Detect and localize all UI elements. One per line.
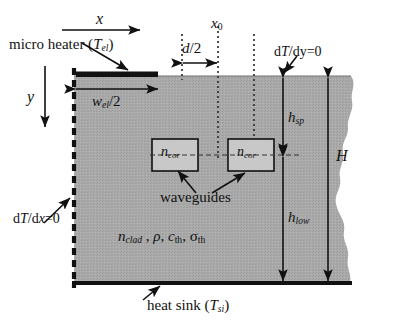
material-comma-2: , (182, 228, 190, 244)
bc-top-rest: /dy=0 (289, 44, 322, 59)
d-half-label: d/2 (182, 41, 201, 56)
micro-heater-bar (76, 72, 158, 78)
material-c-symbol: c (168, 228, 175, 244)
heat-sink-symbol: T (209, 297, 217, 313)
material-c-subscript: th (175, 234, 182, 245)
bc-left-rest: =0 (45, 211, 60, 226)
h-sp-label: hsp (288, 110, 304, 126)
material-comma-1: , (160, 228, 168, 244)
micro-heater-text: micro heater ( (9, 36, 93, 52)
n-core-right-label: ncor (237, 145, 256, 160)
micro-heater-label: micro heater (Tel) (9, 37, 113, 53)
d-half-numerator: d (182, 40, 190, 56)
n-core-right-symbol: n (237, 144, 244, 159)
bc-left-label: dT/dx=0 (13, 212, 60, 226)
n-core-left-symbol: n (161, 144, 168, 159)
h-sp-symbol: h (288, 109, 296, 125)
h-low-label: hlow (288, 210, 309, 226)
bc-top-T: T (281, 44, 289, 59)
micro-heater-paren: ) (108, 36, 113, 52)
material-properties-label: nclad , ρ, cth, σth (118, 229, 205, 245)
w-el-denominator: /2 (109, 93, 121, 109)
x0-label: x0 (211, 16, 222, 32)
y-axis-label: y (27, 89, 34, 105)
d-half-denominator: /2 (190, 40, 202, 56)
h-low-symbol: h (288, 209, 296, 225)
x0-subscript: 0 (218, 21, 223, 32)
material-sigma-subscript: th (198, 234, 205, 245)
w-el-symbol: w (92, 93, 102, 109)
x0-symbol: x (211, 15, 218, 31)
h-sp-subscript: sp (296, 115, 305, 126)
heat-sink-text: heat sink ( (147, 297, 209, 313)
bc-top-d: d (274, 44, 281, 59)
w-el-subscript: el (102, 99, 109, 110)
bc-left-T: T (20, 211, 28, 226)
H-label: H (336, 148, 348, 164)
material-n-symbol: n (118, 228, 126, 244)
figure-root: x y micro heater (Tel) x0 d/2 wel/2 dT/d… (0, 0, 405, 320)
w-el-half-label: wel/2 (92, 94, 121, 110)
material-sigma-symbol: σ (190, 228, 198, 244)
heat-sink-paren: ) (224, 297, 229, 313)
bc-left-slash: /d (28, 211, 39, 226)
n-core-left-subscript: cor (168, 150, 180, 160)
material-n-subscript: clad (126, 234, 143, 245)
material-sep-1: , (142, 228, 153, 244)
h-low-subscript: low (296, 215, 310, 226)
bc-top-label: dT/dy=0 (274, 45, 322, 59)
n-core-left-label: ncor (161, 145, 180, 160)
heat-sink-label: heat sink (Tsi) (147, 298, 229, 314)
bc-left-d: d (13, 211, 20, 226)
waveguides-label: waveguides (160, 190, 231, 205)
x-axis-label: x (96, 11, 103, 27)
n-core-right-subscript: cor (244, 150, 256, 160)
